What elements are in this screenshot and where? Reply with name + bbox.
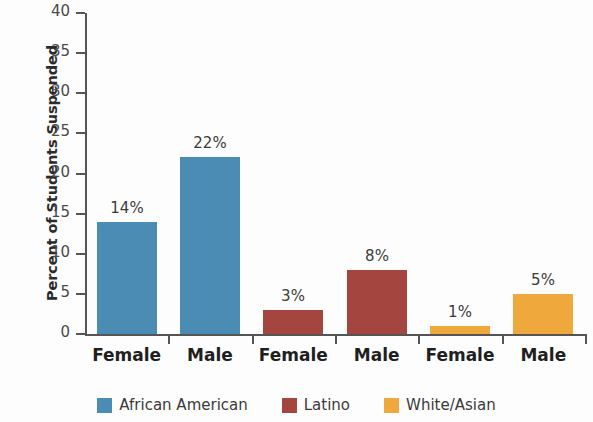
bar-value-label: 3% xyxy=(281,287,305,305)
x-axis-tick xyxy=(252,334,254,344)
legend-item: Latino xyxy=(282,396,350,414)
bar-value-label: 8% xyxy=(365,247,389,265)
bar: 3% xyxy=(263,310,323,334)
y-axis-tick-label: 20 xyxy=(51,163,70,181)
y-axis-tick: 5 xyxy=(76,293,85,295)
y-axis-tick: 35 xyxy=(76,52,85,54)
y-axis-tick-label: 10 xyxy=(51,243,70,261)
x-axis-category-label: Male xyxy=(335,345,418,365)
legend-color-swatch xyxy=(384,398,399,413)
x-axis-category-label: Female xyxy=(85,345,168,365)
chart-legend: African AmericanLatinoWhite/Asian xyxy=(0,396,593,414)
y-axis-tick: 30 xyxy=(76,92,85,94)
x-axis-category-label: Male xyxy=(502,345,585,365)
x-axis-tick xyxy=(335,334,337,344)
legend-label: White/Asian xyxy=(406,396,496,414)
x-axis-category-label: Female xyxy=(252,345,335,365)
bar: 5% xyxy=(513,294,573,334)
y-axis-line xyxy=(85,13,87,336)
x-axis-tick xyxy=(418,334,420,344)
legend-color-swatch xyxy=(97,398,112,413)
bar: 8% xyxy=(347,270,407,334)
plot-area: 0510152025303540 14%22%3%8%1%5% xyxy=(85,13,585,335)
bar-chart-figure: Percent of Students Suspended 0510152025… xyxy=(0,0,593,422)
x-axis-tick xyxy=(168,334,170,344)
x-axis-category-label: Male xyxy=(168,345,251,365)
y-axis-tick: 20 xyxy=(76,173,85,175)
y-axis-tick: 40 xyxy=(76,12,85,14)
y-axis-tick: 0 xyxy=(76,333,85,335)
y-axis-tick-label: 40 xyxy=(51,2,70,20)
bar: 1% xyxy=(430,326,490,334)
y-axis-tick: 15 xyxy=(76,213,85,215)
y-axis-tick-label: 35 xyxy=(51,42,70,60)
y-axis-tick-label: 5 xyxy=(60,283,70,301)
legend-item: White/Asian xyxy=(384,396,496,414)
bar-value-label: 1% xyxy=(448,303,472,321)
y-axis-tick-label: 30 xyxy=(51,82,70,100)
legend-label: Latino xyxy=(304,396,350,414)
legend-item: African American xyxy=(97,396,247,414)
x-axis-tick xyxy=(502,334,504,344)
y-axis-tick: 25 xyxy=(76,132,85,134)
legend-label: African American xyxy=(119,396,247,414)
x-axis-tick xyxy=(585,334,587,344)
bar: 22% xyxy=(180,157,240,334)
bar-value-label: 22% xyxy=(193,134,226,152)
bar-value-label: 14% xyxy=(110,199,143,217)
x-axis-category-label: Female xyxy=(418,345,501,365)
bar: 14% xyxy=(97,222,157,334)
y-axis-tick-label: 15 xyxy=(51,203,70,221)
y-axis-tick-label: 0 xyxy=(60,323,70,341)
bar-value-label: 5% xyxy=(531,271,555,289)
legend-color-swatch xyxy=(282,398,297,413)
y-axis-tick-label: 25 xyxy=(51,122,70,140)
y-axis-tick: 10 xyxy=(76,253,85,255)
